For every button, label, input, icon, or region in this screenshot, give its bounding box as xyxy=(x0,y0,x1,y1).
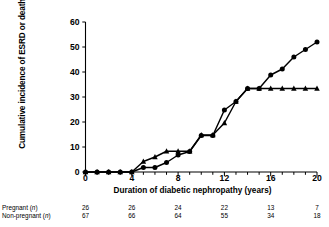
risk-table-cell: 55 xyxy=(213,212,235,219)
risk-table-cell: 26 xyxy=(75,204,97,211)
x-tick-label: 16 xyxy=(259,173,283,183)
risk-table-cell: 34 xyxy=(260,212,282,219)
data-point-circle xyxy=(152,165,157,170)
series-layer xyxy=(83,40,320,175)
risk-table-cell: 7 xyxy=(306,204,328,211)
y-tick-label: 10 xyxy=(56,142,80,152)
data-point-circle xyxy=(303,47,308,52)
risk-table-cell: 26 xyxy=(121,204,143,211)
data-point-circle xyxy=(141,165,146,170)
risk-table-cell: 13 xyxy=(260,204,282,211)
risk-table-cell: 18 xyxy=(306,212,328,219)
data-point-circle xyxy=(291,55,296,60)
series-line xyxy=(86,89,318,173)
risk-table-cell: 22 xyxy=(213,204,235,211)
risk-table-row-label: Pregnant (n) xyxy=(2,204,38,211)
x-tick-label: 12 xyxy=(212,173,236,183)
risk-table-cell: 67 xyxy=(75,212,97,219)
risk-table-cell: 64 xyxy=(167,212,189,219)
data-point-circle xyxy=(268,73,273,78)
y-tick-label: 30 xyxy=(56,92,80,102)
series-pregnant xyxy=(83,40,320,175)
data-point-circle xyxy=(315,40,320,45)
x-tick-label: 8 xyxy=(166,173,190,183)
risk-table-row-label: Non-pregnant (n) xyxy=(2,212,51,219)
axes xyxy=(82,22,317,176)
data-point-circle xyxy=(164,160,169,165)
data-point-circle xyxy=(222,108,227,113)
risk-table-cell: 24 xyxy=(167,204,189,211)
x-tick-label: 0 xyxy=(74,173,98,183)
x-tick-label: 4 xyxy=(120,173,144,183)
series-line xyxy=(86,42,318,172)
y-tick-label: 40 xyxy=(56,67,80,77)
y-tick-label: 50 xyxy=(56,42,80,52)
x-tick-label: 20 xyxy=(305,173,329,183)
y-tick-label: 20 xyxy=(56,117,80,127)
data-point-circle xyxy=(280,67,285,72)
risk-table-cell: 66 xyxy=(121,212,143,219)
y-tick-label: 60 xyxy=(56,17,80,27)
x-axis-title: Duration of diabetic nephropathy (years) xyxy=(60,186,325,195)
figure: Cumulative incidence of ESRD or death (%… xyxy=(0,0,329,227)
series-non-pregnant xyxy=(83,86,320,175)
